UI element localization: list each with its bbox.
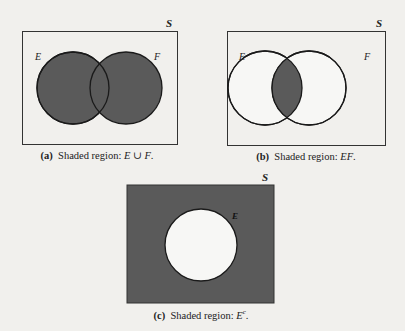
label-s-c: S <box>262 171 268 183</box>
label-e-a: E <box>34 51 41 62</box>
label-f-a: F <box>153 51 161 62</box>
panel-a: S E F <box>23 17 178 145</box>
caption-text-c: Shaded region: <box>170 310 236 321</box>
label-e-b: E <box>238 51 245 62</box>
caption-c: (c) Shaded region: Ec. <box>154 308 249 321</box>
label-s-a: S <box>166 17 172 29</box>
caption-math-a: E ∪ F <box>124 150 151 161</box>
caption-text-a: Shaded region: <box>58 150 124 161</box>
caption-tag-c: (c) <box>154 310 166 321</box>
caption-end-c: . <box>246 310 249 321</box>
label-s-b: S <box>376 17 382 29</box>
caption-b: (b) Shaded region: EF. <box>256 151 355 162</box>
venn-diagrams: S E F S E F S E <box>0 0 405 331</box>
panel-c: S E <box>127 171 274 303</box>
set-e-c <box>165 209 237 281</box>
caption-text-b: Shaded region: <box>274 151 340 162</box>
caption-math-b: EF <box>340 151 353 162</box>
caption-end-b: . <box>353 151 356 162</box>
set-f-a <box>90 52 162 124</box>
caption-end-a: . <box>151 150 154 161</box>
panel-b: S E F <box>228 17 386 146</box>
label-f-b: F <box>363 51 371 62</box>
caption-a: (a) Shaded region: E ∪ F. <box>41 149 154 161</box>
caption-tag-b: (b) <box>256 151 269 162</box>
label-e-c: E <box>231 211 238 221</box>
caption-tag-a: (a) <box>41 150 53 161</box>
